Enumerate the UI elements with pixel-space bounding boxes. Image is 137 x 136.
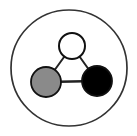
node-top-white <box>59 33 85 59</box>
node-graph-figure <box>0 0 137 136</box>
node-bottom-right-black <box>82 66 112 96</box>
figure-background <box>0 0 137 136</box>
node-bottom-left-gray <box>31 67 61 97</box>
diagram-canvas: Three-node triangular graph inside a cir… <box>0 0 137 136</box>
